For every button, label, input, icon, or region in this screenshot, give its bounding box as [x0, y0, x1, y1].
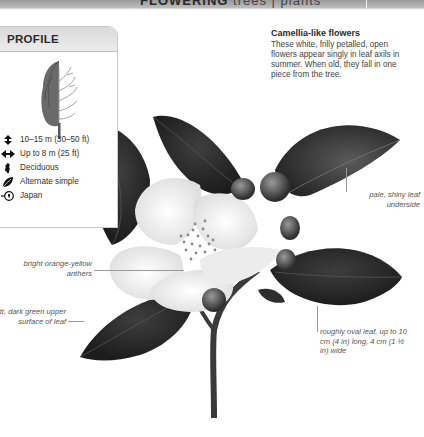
profile-panel: PROFILE 10–15 m (30–50 ft) Up to 8 m (25…	[0, 26, 118, 228]
fact-leaf-type-text: Deciduous	[20, 163, 59, 173]
leader-line-upper-surface	[68, 321, 84, 322]
fact-leaf-arrangement: Alternate simple	[1, 177, 113, 187]
globe-icon	[1, 191, 15, 201]
width-arrows-icon	[1, 149, 15, 159]
profile-heading: PROFILE	[0, 27, 117, 52]
fact-height: 10–15 m (30–50 ft)	[1, 135, 113, 145]
callout-title: Camellia-like flowers	[271, 28, 360, 38]
label-anthers: bright orange-yellow anthers	[4, 259, 92, 278]
leaf-arrangement-icon	[1, 177, 15, 187]
leader-line-underside	[346, 168, 347, 192]
height-arrows-icon	[1, 135, 15, 145]
callout-body: These white, frilly petalled, open flowe…	[271, 40, 411, 80]
fact-spread-text: Up to 8 m (25 ft)	[20, 149, 79, 159]
fact-leaf-arrangement-text: Alternate simple	[20, 177, 79, 187]
tree-silhouette-icon	[29, 57, 89, 141]
leader-line-oval-leaf	[317, 306, 318, 332]
profile-facts: 10–15 m (30–50 ft) Up to 8 m (25 ft) Dec…	[1, 135, 113, 205]
label-oval-leaf: roughly oval leaf, up to 10 cm (4 in) lo…	[320, 327, 412, 356]
fact-origin: Japan	[1, 191, 113, 201]
fact-height-text: 10–15 m (30–50 ft)	[20, 135, 89, 145]
leader-line-anthers	[94, 270, 184, 271]
fact-leaf-type: Deciduous	[1, 163, 113, 173]
label-upper-surface: matt, dark green upper surface of leaf	[0, 307, 66, 326]
label-leaf-underside: pale, shiny leaf underside	[350, 190, 420, 209]
fact-spread: Up to 8 m (25 ft)	[1, 149, 113, 159]
fact-origin-text: Japan	[20, 191, 42, 201]
deciduous-leaf-icon	[1, 163, 15, 173]
